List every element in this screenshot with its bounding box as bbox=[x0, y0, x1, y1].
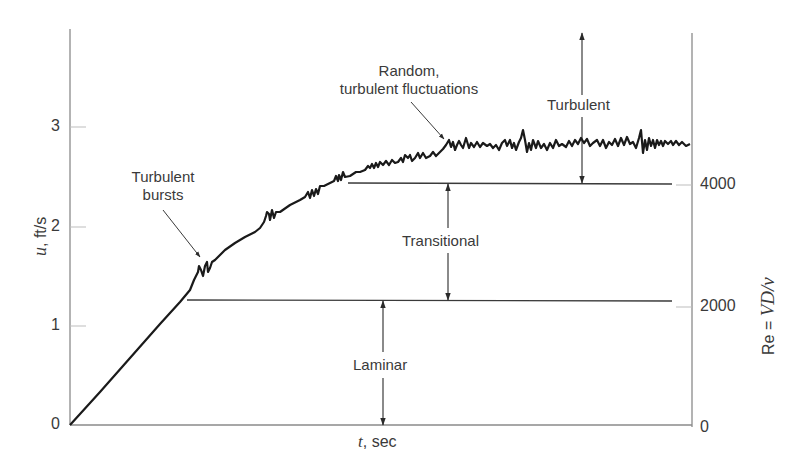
left-ticks bbox=[70, 127, 86, 326]
y-tick-3: 3 bbox=[40, 117, 60, 135]
y-tick-1: 1 bbox=[40, 316, 60, 334]
threshold-line-re-4000 bbox=[348, 183, 672, 184]
y-axis-label-unit: , ft/s bbox=[32, 217, 49, 247]
annotation-turbulent-bursts-line1: Turbulent bbox=[118, 168, 208, 186]
y-right-axis-label-prefix: Re = bbox=[760, 316, 777, 355]
annotation-turbulent-bursts-line2: bursts bbox=[118, 186, 208, 204]
y-right-axis-label-formula: VD/ν bbox=[757, 277, 778, 316]
annotation-random-line2: turbulent fluctuations bbox=[314, 80, 504, 98]
y-right-axis-label: Re = VD/ν bbox=[757, 277, 779, 355]
turbulent-bursts-pointer bbox=[163, 210, 200, 257]
annotation-random-fluctuations: Random, turbulent fluctuations bbox=[314, 62, 504, 98]
y-right-tick-4000: 4000 bbox=[700, 175, 736, 193]
random-fluctuations-pointer bbox=[411, 102, 444, 139]
y-right-tick-0: 0 bbox=[700, 418, 709, 436]
y-axis-label: u, ft/s bbox=[30, 217, 51, 256]
y-right-tick-2000: 2000 bbox=[700, 297, 736, 315]
region-label-laminar: Laminar bbox=[353, 356, 407, 373]
region-label-turbulent: Turbulent bbox=[547, 96, 610, 113]
right-ticks bbox=[676, 185, 692, 307]
annotation-turbulent-bursts: Turbulent bursts bbox=[118, 168, 208, 204]
x-axis-label-unit: , sec bbox=[363, 433, 397, 450]
annotation-random-line1: Random, bbox=[314, 62, 504, 80]
threshold-line-re-2000 bbox=[187, 300, 672, 301]
y-tick-0: 0 bbox=[40, 415, 60, 433]
region-label-transitional: Transitional bbox=[402, 232, 479, 249]
x-axis-label: t, sec bbox=[358, 432, 397, 452]
y-axis-label-symbol: u bbox=[30, 247, 50, 256]
